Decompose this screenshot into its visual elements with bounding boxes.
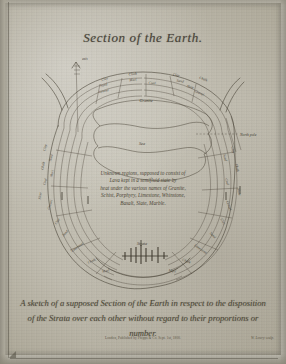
core-note-line-5: Basalt, Slate, Marble. (77, 200, 209, 207)
stratum-label: Chalk (182, 258, 192, 265)
caption-line-1: A sketch of a supposed Section of the Ea… (14, 296, 272, 311)
stratum-label: Chalk (234, 163, 239, 172)
core-note-block: Unknown regions, supposed to consist of … (77, 170, 209, 207)
stratum-label: Slate (37, 192, 42, 200)
page-corner-fold (9, 351, 16, 358)
stratum-label: Coal (149, 81, 156, 85)
stratum-label: Marl (128, 78, 136, 83)
stratum-label: Chalk (199, 76, 209, 83)
svg-text:Strata: Strata (137, 241, 147, 246)
svg-text:Sea: Sea (139, 141, 145, 146)
stratum-label: Sand (176, 78, 184, 83)
stratum-label: Sand (61, 229, 69, 237)
stratum-label: Coal (42, 178, 48, 186)
page-title: Section of the Earth. (0, 30, 286, 46)
stratum-label: Sand (100, 82, 108, 88)
diagram-labels: Granite Sea Strata North pole axis ClayS… (37, 57, 256, 274)
plate-caption: A sketch of a supposed Section of the Ea… (14, 296, 272, 341)
stratum-label: Sand (48, 154, 54, 162)
stratum-label: Coal (224, 178, 230, 186)
stratum-label: Clay (219, 218, 226, 226)
stratum-label: Slate (236, 188, 241, 196)
stratum-label: Clay (173, 72, 181, 77)
strata-bands-bottom (96, 258, 190, 285)
stratum-label: Gravel (47, 199, 54, 210)
stratum-label: Limestone (70, 241, 85, 254)
stratum-label: Gravel (225, 200, 232, 211)
svg-text:Granite: Granite (139, 98, 152, 103)
bottom-rule (10, 358, 278, 359)
stratum-label: Clay (42, 144, 48, 152)
publisher-imprint: London, Published by Phipps & Co. Sept. … (0, 336, 286, 340)
core-note-line-4: Schist, Porphyry, Limestone, Whinstone, (77, 192, 209, 199)
core-note-line-1: Unknown regions, supposed to consist of (77, 170, 209, 177)
core-note-line-3: heat under the various names of Granite, (77, 185, 209, 192)
svg-text:North pole: North pole (239, 133, 257, 137)
polar-axis (72, 62, 80, 132)
stratum-label: Clay (54, 217, 61, 225)
stratum-label: Gravel (194, 89, 205, 97)
stratum-label: Sand (222, 154, 228, 162)
sea-surface-lines (98, 122, 209, 154)
stratum-label: Clay (230, 146, 235, 154)
stratum-label: Marl (49, 170, 55, 179)
svg-text:axis: axis (82, 57, 88, 61)
stratum-label: Chalk (129, 72, 138, 77)
core-note-line-2: Lava kept in a semifluid state by (77, 177, 209, 184)
stratum-label: Gravel (99, 88, 109, 94)
stratum-label: Chalk (87, 257, 97, 264)
plate-flourishes (42, 74, 244, 112)
plate-page: Granite Sea Strata North pole axis ClayS… (0, 0, 286, 364)
stratum-label: Marl (101, 268, 110, 274)
stratum-label: Chalk (40, 161, 46, 170)
engraver-credit: W. Lowry sculp. (251, 336, 274, 340)
